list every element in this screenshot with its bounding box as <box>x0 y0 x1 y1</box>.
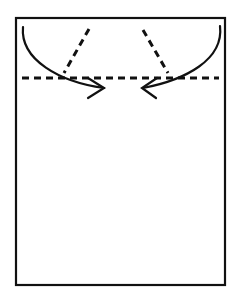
left-fold-arrow-icon <box>23 27 104 98</box>
paper-sheet <box>16 18 225 285</box>
fold-arrows <box>23 26 220 98</box>
folding-diagram <box>0 0 237 296</box>
right-diagonal-fold-line <box>143 30 168 73</box>
right-fold-arrow-icon <box>142 26 220 98</box>
left-diagonal-fold-line <box>64 29 89 73</box>
